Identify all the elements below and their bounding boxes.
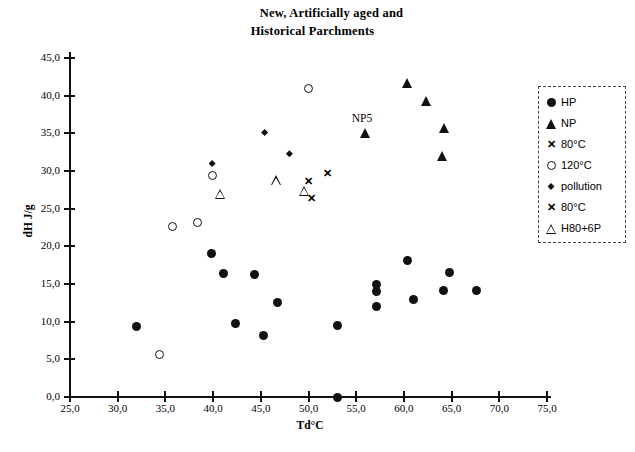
x-tick (117, 391, 119, 402)
x-tick-label: 50,0 (286, 403, 332, 414)
y-tick-label: 30,0 (18, 165, 60, 176)
legend-item-label: NP (561, 118, 576, 129)
y-axis-title: dH J/g (22, 181, 34, 261)
x-axis-line (69, 396, 551, 398)
legend-marker (544, 117, 558, 131)
x-tick-label: 65,0 (429, 403, 475, 414)
x-tick (308, 391, 310, 402)
legend-item[interactable]: ✕80°C (544, 134, 625, 155)
data-point (299, 186, 309, 196)
data-point (155, 350, 164, 359)
data-point (372, 287, 381, 296)
data-point (409, 295, 418, 304)
marker-x-icon: ✕ (546, 139, 557, 150)
data-point (207, 249, 216, 258)
x-tick (260, 391, 262, 402)
data-point (132, 322, 141, 331)
y-tick (64, 95, 75, 97)
x-tick-label: 55,0 (333, 403, 379, 414)
data-point (208, 171, 217, 180)
y-tick-label: 45,0 (18, 52, 60, 63)
marker-triangle-filled-icon (546, 119, 556, 129)
y-tick-label: 10,0 (18, 316, 60, 327)
y-tick-label: 5,0 (18, 353, 60, 364)
data-point (402, 78, 412, 88)
x-tick-label: 60,0 (381, 403, 427, 414)
data-point (231, 319, 240, 328)
x-tick (212, 391, 214, 402)
data-point (261, 129, 268, 136)
x-tick (403, 391, 405, 402)
data-point (372, 302, 381, 311)
marker-circle-open-icon (547, 161, 556, 170)
data-point (437, 151, 447, 161)
data-point (333, 393, 342, 402)
data-point (403, 256, 412, 265)
data-point (304, 84, 313, 93)
legend-item[interactable]: ✕80°C (544, 197, 625, 218)
legend-item-label: 120°C (561, 160, 592, 171)
legend-item-label: pollution (561, 181, 602, 192)
x-tick-label: 75,0 (524, 403, 570, 414)
legend-marker (544, 180, 558, 194)
y-tick (64, 208, 75, 210)
x-tick (355, 391, 357, 402)
legend-marker: ✕ (544, 201, 558, 215)
x-tick (451, 391, 453, 402)
chart-figure: New, Artificially aged and Historical Pa… (0, 0, 635, 452)
x-axis-title: Td°C (0, 419, 620, 431)
x-tick-label: 40,0 (190, 403, 236, 414)
data-point (445, 268, 454, 277)
y-tick-label: 35,0 (18, 127, 60, 138)
x-tick-label: 45,0 (238, 403, 284, 414)
x-tick (69, 391, 71, 402)
legend-marker (544, 159, 558, 173)
data-point (472, 286, 481, 295)
marker-circle-filled-icon (547, 98, 556, 107)
legend-item-label: H80+6P (561, 223, 601, 234)
y-tick (64, 245, 75, 247)
data-point (286, 150, 293, 157)
marker-triangle-open-icon (546, 224, 556, 234)
marker-x-icon: ✕ (546, 202, 557, 213)
y-tick (64, 57, 75, 59)
legend-item-label: 80°C (561, 202, 586, 213)
legend-marker (544, 96, 558, 110)
x-tick-label: 70,0 (476, 403, 522, 414)
y-tick-label: 15,0 (18, 278, 60, 289)
data-point: ✕ (322, 168, 333, 179)
legend-item-label: 80°C (561, 139, 586, 150)
data-point (439, 286, 448, 295)
x-tick-label: 35,0 (142, 403, 188, 414)
legend-marker (544, 222, 558, 236)
marker-diamond-icon (548, 183, 555, 190)
legend-item-label: HP (561, 97, 576, 108)
x-tick-label: 30,0 (95, 403, 141, 414)
legend-item[interactable]: pollution (544, 176, 625, 197)
x-tick (546, 391, 548, 402)
y-tick (64, 132, 75, 134)
legend-marker: ✕ (544, 138, 558, 152)
x-tick (164, 391, 166, 402)
y-tick (64, 170, 75, 172)
data-point (333, 321, 342, 330)
y-axis-line (69, 52, 71, 400)
x-tick (498, 391, 500, 402)
data-point (273, 298, 282, 307)
data-point (421, 96, 431, 106)
data-point (215, 189, 225, 199)
point-annotation: NP5 (352, 112, 372, 124)
x-tick-label: 25,0 (47, 403, 93, 414)
legend-item[interactable]: 120°C (544, 155, 625, 176)
data-point (168, 222, 177, 231)
legend-item[interactable]: H80+6P (544, 218, 625, 239)
data-point (360, 128, 370, 138)
data-point (193, 218, 202, 227)
y-tick (64, 283, 75, 285)
data-point (439, 123, 449, 133)
legend-item[interactable]: HP (544, 92, 625, 113)
y-tick (64, 321, 75, 323)
data-point (209, 160, 216, 167)
legend-item[interactable]: NP (544, 113, 625, 134)
y-tick-label: 40,0 (18, 90, 60, 101)
